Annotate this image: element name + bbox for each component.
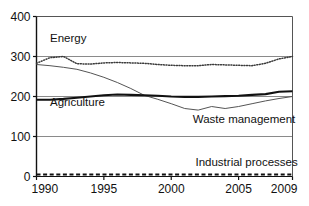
series-label-waste-management: Waste management — [193, 113, 296, 125]
x-tick-label-1990: 1990 — [32, 182, 59, 196]
y-tick-label-200: 200 — [10, 90, 30, 104]
x-tick-label-2009: 2009 — [271, 182, 298, 196]
emissions-line-chart: 0100200300400 19901995200020052009 Energ… — [0, 0, 309, 206]
chart-container: 0100200300400 19901995200020052009 Energ… — [0, 0, 309, 206]
series-label-industrial-processes: Industrial processes — [195, 156, 298, 168]
y-tick-label-100: 100 — [10, 130, 30, 144]
y-tick-label-0: 0 — [24, 170, 31, 184]
x-tick-label-2000: 2000 — [158, 182, 185, 196]
series-label-agriculture: Agriculture — [50, 96, 105, 108]
x-tick-label-2005: 2005 — [225, 182, 252, 196]
series-label-energy: Energy — [50, 32, 87, 44]
y-tick-label-300: 300 — [10, 50, 30, 64]
y-tick-label-400: 400 — [10, 10, 30, 24]
x-tick-label-1995: 1995 — [91, 182, 118, 196]
